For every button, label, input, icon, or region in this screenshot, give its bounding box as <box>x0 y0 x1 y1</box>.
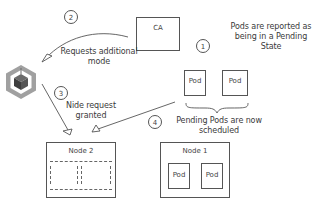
pod-label: Pod <box>223 77 247 85</box>
pending-pod-1: Pod <box>184 70 206 96</box>
step-3-text: Nide request granted <box>58 101 124 121</box>
arrowhead-4 <box>92 125 100 132</box>
cloud-provider-cube-icon <box>4 64 38 100</box>
arrowhead-3 <box>63 129 72 135</box>
slot-divider <box>81 166 82 184</box>
step-1-badge: 1 <box>196 39 210 53</box>
step-2-badge: 2 <box>64 10 78 24</box>
pending-pod-2: Pod <box>222 70 248 96</box>
node-2-label: Node 2 <box>47 147 115 155</box>
slot-divider <box>50 166 51 184</box>
pod-label: Pod <box>169 171 189 179</box>
step-4-badge: 4 <box>148 115 162 129</box>
pod-label: Pod <box>185 77 205 85</box>
step-4-text: Pending Pods are now scheduled <box>166 116 272 136</box>
cluster-autoscaler-box: CA <box>136 17 180 51</box>
node-1-pod-2: Pod <box>201 163 223 189</box>
step-1-text: Pods are reported as being in a Pending … <box>225 22 317 52</box>
brace <box>186 103 248 113</box>
step-2-text: Requests additional mode <box>56 47 142 67</box>
node-1-pod-1: Pod <box>168 163 190 189</box>
empty-pod-slots <box>50 161 112 190</box>
step-3-badge: 3 <box>54 86 68 100</box>
slot-divider <box>110 166 111 184</box>
arrowhead-2 <box>42 54 52 62</box>
node-2-box: Node 2 <box>46 142 116 198</box>
ca-label: CA <box>137 24 179 32</box>
node-1-box: Node 1 Pod Pod <box>160 142 230 198</box>
slot-divider <box>77 166 78 184</box>
pod-label: Pod <box>202 171 222 179</box>
node-1-label: Node 1 <box>161 147 229 155</box>
